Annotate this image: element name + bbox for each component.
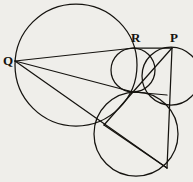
point-label-r: R — [131, 31, 141, 44]
chord-q-to-r — [15, 48, 134, 61]
segment-p-vertical — [167, 48, 172, 168]
geometry-canvas — [0, 0, 193, 182]
segment-center-to-lower — [104, 92, 133, 125]
point-label-p: P — [170, 31, 178, 44]
point-label-q: Q — [3, 54, 13, 67]
lines-group — [15, 48, 172, 168]
segment-p-to-center — [133, 48, 172, 92]
segment-lower-diagonal — [104, 125, 167, 168]
lower-circle — [94, 92, 178, 176]
circles-group — [15, 4, 193, 176]
geometry-figure: Q R P — [0, 0, 193, 182]
right-circle — [142, 47, 193, 105]
chord-q-to-center — [15, 61, 133, 92]
